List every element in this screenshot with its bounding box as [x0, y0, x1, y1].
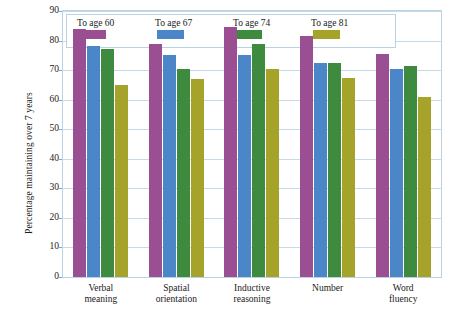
bar[interactable] — [224, 27, 237, 277]
bar[interactable] — [252, 44, 265, 277]
y-tick-mark — [58, 129, 62, 130]
y-tick-label: 60 — [33, 94, 59, 104]
bar[interactable] — [87, 46, 100, 277]
y-tick-mark — [58, 277, 62, 278]
y-tick-mark — [58, 159, 62, 160]
bars-layer — [63, 11, 441, 277]
bar[interactable] — [191, 79, 204, 277]
x-axis-label: Wordfluency — [357, 283, 449, 305]
bar-chart: Percentage maintaining over 7 years 0102… — [0, 0, 451, 322]
bar-group — [214, 11, 290, 277]
y-tick-mark — [58, 41, 62, 42]
bar[interactable] — [418, 97, 431, 277]
bar[interactable] — [376, 54, 389, 277]
y-tick-mark — [58, 247, 62, 248]
y-tick-label: 90 — [33, 5, 59, 15]
bar[interactable] — [266, 69, 279, 277]
bar[interactable] — [177, 69, 190, 277]
y-tick-label: 70 — [33, 64, 59, 74]
bar-group — [63, 11, 139, 277]
y-tick-mark — [58, 218, 62, 219]
bar[interactable] — [390, 69, 403, 277]
x-axis-label-line: fluency — [357, 294, 449, 305]
y-tick-mark — [58, 100, 62, 101]
y-tick-mark — [58, 188, 62, 189]
y-tick-label: 30 — [33, 182, 59, 192]
bar-group — [139, 11, 215, 277]
bar[interactable] — [238, 55, 251, 277]
bar[interactable] — [404, 66, 417, 277]
y-tick-label: 10 — [33, 241, 59, 251]
y-tick-mark — [58, 11, 62, 12]
bar[interactable] — [328, 63, 341, 277]
bar[interactable] — [101, 49, 114, 277]
bar[interactable] — [300, 36, 313, 277]
bar[interactable] — [115, 85, 128, 277]
x-axis-label-line: Word — [357, 283, 449, 294]
y-tick-label: 20 — [33, 212, 59, 222]
bar-group — [290, 11, 366, 277]
bar-group — [365, 11, 441, 277]
y-tick-label: 40 — [33, 153, 59, 163]
bar[interactable] — [149, 44, 162, 277]
bar[interactable] — [314, 63, 327, 277]
bar[interactable] — [73, 29, 86, 277]
bar[interactable] — [342, 78, 355, 278]
y-tick-label: 80 — [33, 35, 59, 45]
x-axis-label-line: reasoning — [206, 294, 298, 305]
bar[interactable] — [163, 55, 176, 277]
y-tick-mark — [58, 70, 62, 71]
y-tick-label: 50 — [33, 123, 59, 133]
y-tick-label: 0 — [33, 271, 59, 281]
